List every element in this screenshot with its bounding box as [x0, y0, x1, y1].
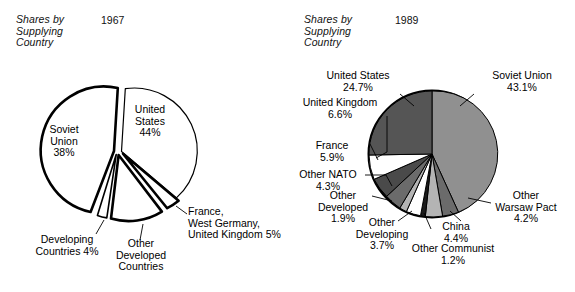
label-china: China 4.4% [430, 221, 482, 244]
label-united-states: United States 24.7% [312, 70, 404, 93]
label-soviet-union: Soviet Union 38% [33, 124, 95, 159]
label-france-west-germany-united-kingdom: France, West Germany, United Kingdom 5% [188, 206, 288, 241]
label-united-states: United States 44% [118, 104, 182, 139]
label-united-kingdom: United Kingdom 6.6% [290, 97, 390, 120]
label-other-communist: Other Communist 1.2% [398, 243, 508, 266]
label-other-warsaw-pact: Other Warsaw Pact 4.2% [486, 190, 566, 225]
label-soviet-union: Soviet Union 43.1% [476, 70, 568, 93]
chart-panel-1967: Shares by Supplying Country 1967 United … [0, 0, 287, 292]
label-developing-countries: Developing Countries 4% [32, 234, 102, 257]
label-other-developed-countries: Other Developed Countries [110, 238, 172, 273]
chart-panel-1989: Shares by Supplying Country 1989 [288, 0, 575, 292]
label-france: France 5.9% [300, 140, 364, 163]
